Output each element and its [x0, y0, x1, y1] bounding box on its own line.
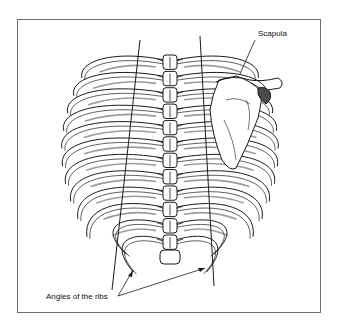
scapula-blade: [210, 76, 262, 169]
intercostal-shading: [104, 213, 156, 220]
vertebral-process: [157, 106, 183, 117]
rib-left: [113, 220, 164, 254]
angles-arrowhead-left: [128, 270, 133, 277]
rib-right-edge: [176, 192, 259, 221]
intercostal-shading: [85, 114, 156, 121]
angles-arrowhead-right: [198, 268, 205, 272]
scapula-leader-line: [240, 40, 255, 74]
scapula-label: Scapula: [258, 30, 287, 38]
rib-right: [176, 220, 227, 254]
intercostal-shading: [100, 65, 156, 72]
vertebral-process: [157, 122, 183, 133]
angles-of-ribs-label: Angles of the ribs: [46, 293, 108, 301]
intercostal-shading: [184, 196, 244, 203]
lumbar-vertebra: [160, 250, 180, 264]
intercostal-shading: [184, 180, 249, 187]
intercostal-shading: [88, 98, 156, 105]
rib-left: [122, 236, 164, 272]
vertebral-column: [157, 55, 183, 264]
intercostal-shading: [184, 164, 253, 171]
intercostal-shading: [84, 147, 156, 154]
rib-left-edge: [71, 93, 164, 115]
vertebral-process: [157, 90, 183, 101]
rib-left: [63, 105, 164, 131]
scapula-drawing: [210, 76, 282, 169]
ribs-left: [62, 56, 164, 274]
intercostal-shading: [96, 196, 156, 203]
thoracic-cage-illustration: [0, 0, 337, 329]
right-angle-line: [200, 36, 214, 286]
intercostal-shading: [87, 164, 156, 171]
angles-leader-line-right: [118, 268, 205, 296]
vertebral-process: [157, 73, 183, 84]
vertebral-process: [157, 155, 183, 166]
vertebral-process: [157, 172, 183, 183]
vertebral-process: [157, 139, 183, 150]
intercostal-shading: [93, 82, 156, 89]
rib-right-edge: [176, 175, 266, 203]
vertebral-process: [157, 188, 183, 199]
intercostal-shading: [84, 131, 156, 138]
vertebral-process: [157, 204, 183, 215]
vertebral-process: [157, 57, 183, 68]
rib-left: [62, 122, 164, 149]
rib-left-edge: [74, 175, 164, 203]
rib-left: [62, 138, 164, 166]
intercostal-shading: [184, 65, 240, 72]
